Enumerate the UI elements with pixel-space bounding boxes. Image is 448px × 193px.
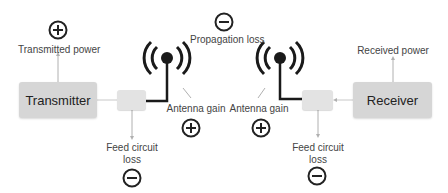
tx-feed-label-line1: Feed circuit bbox=[102, 142, 162, 154]
tx-feed-loss-label: Feed circuit loss bbox=[102, 142, 162, 166]
tx-antenna-cable bbox=[146, 58, 167, 101]
tx-antenna-gain-arrow bbox=[183, 88, 191, 98]
arrow-head-icon bbox=[316, 134, 320, 138]
rx-feed-label-line1: Feed circuit bbox=[288, 142, 348, 154]
rx-feed-circuit-block bbox=[302, 90, 333, 110]
receiver-label: Receiver bbox=[367, 93, 418, 108]
plus-circle-icon bbox=[48, 20, 68, 40]
minus-circle-icon bbox=[214, 12, 234, 32]
rx-antenna-cable bbox=[280, 58, 302, 99]
rx-antenna-gain-arrow bbox=[258, 88, 265, 98]
receiver-block: Receiver bbox=[353, 82, 432, 118]
arrow-head-icon bbox=[333, 98, 337, 102]
minus-circle-icon bbox=[307, 166, 327, 186]
tx-feed-label-line2: loss bbox=[102, 154, 162, 166]
arrow-head-icon bbox=[130, 136, 134, 140]
propagation-loss-label: Propagation loss bbox=[190, 34, 262, 46]
transmitter-label: Transmitter bbox=[25, 93, 90, 108]
plus-circle-icon bbox=[181, 118, 201, 138]
minus-circle-icon bbox=[122, 168, 142, 188]
rx-feed-loss-label: Feed circuit loss bbox=[288, 142, 348, 166]
tx-feed-circuit-block bbox=[117, 90, 146, 110]
transmitter-block: Transmitter bbox=[19, 82, 97, 118]
plus-circle-icon bbox=[251, 118, 271, 138]
rx-feed-label-line2: loss bbox=[288, 154, 348, 166]
received-power-label: Received power bbox=[356, 45, 430, 57]
transmitted-power-label: Transmitted power bbox=[18, 44, 98, 56]
tx-antenna-gain-label: Antenna gain bbox=[165, 103, 227, 115]
rx-antenna-gain-label: Antenna gain bbox=[228, 103, 290, 115]
